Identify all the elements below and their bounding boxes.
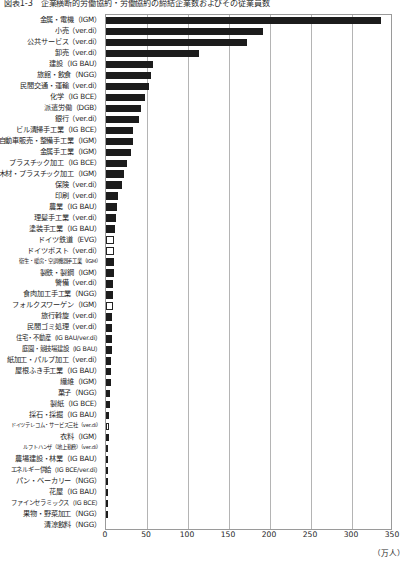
x-axis-unit-label: （万人） — [373, 547, 405, 558]
bar — [106, 401, 110, 408]
category-axis-labels: 金属・電機（IGM）小売（ver.di）公共サービス（ver.di）卸売（ver… — [0, 14, 103, 530]
category-label: 果物・野菜加工（NGG） — [23, 508, 101, 519]
plot-area — [105, 14, 392, 530]
gridline-200 — [270, 15, 271, 529]
category-label: 農場建設・林業（IG BAU） — [15, 453, 101, 464]
bar — [106, 28, 263, 35]
category-label: 保険（ver.di） — [55, 179, 101, 190]
category-label: 化学（IG BCE） — [50, 91, 101, 102]
category-label: 小売（ver.di） — [55, 25, 101, 36]
gridline-150 — [229, 15, 230, 529]
bar — [106, 412, 109, 419]
category-label: 金属手工業（IGM） — [40, 146, 101, 157]
bar — [106, 39, 247, 46]
bar — [106, 445, 108, 452]
bar — [106, 456, 108, 463]
bar — [106, 390, 110, 397]
bar — [106, 203, 117, 210]
bar — [106, 357, 111, 364]
category-label: 屋根ふき手工業（IG BAU） — [15, 365, 101, 376]
category-label: 清涼飲料（NGG） — [44, 519, 101, 530]
chart-plot-wrapper: 金属・電機（IGM）小売（ver.di）公共サービス（ver.di）卸売（ver… — [0, 14, 409, 530]
x-tick-label: 100 — [180, 530, 195, 539]
bar — [106, 280, 113, 287]
bar — [106, 489, 108, 496]
category-label: 採石・採掘（IG BAU） — [29, 409, 101, 420]
bar — [106, 302, 113, 309]
bar — [106, 236, 114, 243]
x-axis-ticks: 050100150200250300350 — [105, 530, 393, 544]
category-label: 卸売（ver.di） — [55, 47, 101, 58]
category-label: 派遣労働（DGB） — [44, 102, 101, 113]
category-label: 食肉加工手工業（NGG） — [23, 288, 101, 299]
bar — [106, 192, 118, 199]
gridline-100 — [188, 15, 189, 529]
bar — [106, 149, 131, 156]
category-label: 塗装手工業（IG BAU） — [29, 223, 101, 234]
bar — [106, 50, 199, 57]
bar — [106, 511, 108, 518]
category-label: エネルギー供給（IG BCE/ver.di） — [11, 464, 101, 475]
bar — [106, 423, 109, 430]
x-tick-label: 0 — [103, 530, 108, 539]
bar — [106, 247, 114, 254]
category-label: ルフトハンザ（地上勤務）（ver.di） — [23, 442, 101, 453]
bar — [106, 335, 112, 342]
category-label: 建設（IG BAU） — [49, 58, 101, 69]
bar — [106, 83, 149, 90]
category-label: 理髪手工業（ver.di） — [34, 212, 101, 223]
category-label: 住宅・不動産（IG BAU/ver.di） — [16, 332, 101, 343]
bar — [106, 313, 112, 320]
category-label: ドイツポスト（ver.di） — [27, 245, 101, 256]
bar — [106, 61, 153, 68]
bar — [106, 324, 112, 331]
category-label: 農業（IG BAU） — [49, 201, 101, 212]
category-label: 民間交通・運輸（ver.di） — [20, 80, 101, 91]
category-label: フォルクスワーゲン（IGM） — [12, 299, 101, 310]
bar — [106, 181, 122, 188]
category-label: 公共サービス（ver.di） — [27, 36, 101, 47]
bar — [106, 170, 124, 177]
category-label: 金属・電機（IGM） — [40, 14, 101, 25]
category-label: 印刷（ver.di） — [55, 190, 101, 201]
category-label: 旅行斡旋（ver.di） — [41, 310, 101, 321]
category-label: 衣料（IGM） — [60, 431, 101, 442]
bar — [106, 500, 108, 507]
bar — [106, 160, 127, 167]
bar — [106, 258, 114, 265]
category-label: 民間ゴミ処理（ver.di） — [27, 321, 101, 332]
x-tick-label: 250 — [303, 530, 318, 539]
gridline-250 — [311, 15, 312, 529]
category-label: 警備（ver.di） — [55, 277, 101, 288]
category-label: 旅館・飲食（NGG） — [37, 69, 101, 80]
category-label: 製紙（IG BCE） — [50, 398, 101, 409]
bar — [106, 94, 145, 101]
gridline-50 — [147, 15, 148, 529]
category-label: プラスチック加工（IG BCE） — [9, 157, 101, 168]
bar — [106, 116, 139, 123]
bar — [106, 368, 111, 375]
category-label: 花屋（IG BAU） — [49, 486, 101, 497]
x-tick-label: 50 — [141, 530, 151, 539]
category-label: ファインセラミックス（IG BCE） — [11, 497, 101, 508]
bar — [106, 105, 141, 112]
category-label: ビル清掃手工業（IG BCE） — [16, 124, 101, 135]
category-label: 自動車販売・整備手工業（IGM） — [0, 135, 101, 146]
category-label: パン・ベーカリー（NGG） — [16, 475, 101, 486]
bar — [106, 269, 114, 276]
bar — [106, 72, 151, 79]
bar — [106, 17, 381, 24]
bar — [106, 478, 108, 485]
bar — [106, 127, 133, 134]
bar — [106, 434, 109, 441]
bar — [106, 214, 116, 221]
x-tick-label: 350 — [385, 530, 400, 539]
category-label: ドイツテレコム・サービス三社（ver.di） — [11, 420, 101, 431]
category-label: 製鉄・製鋼（IGM） — [40, 267, 101, 278]
chart-title: 図表1-3 企業横断的労働協約・労働協約の締結企業数およびその従業員数 — [4, 0, 404, 9]
category-label: 繊維（IGM） — [60, 376, 101, 387]
category-label: 木材・プラスチック加工（IGM） — [0, 168, 101, 179]
bar — [106, 225, 115, 232]
category-label: 衛生・暖房・空調機器手工業（IGM） — [19, 256, 101, 267]
x-tick-label: 150 — [221, 530, 236, 539]
